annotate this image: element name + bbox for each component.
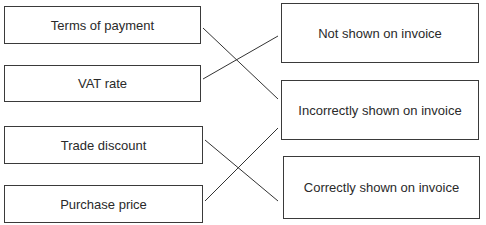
right-box-correctly-shown: Correctly shown on invoice bbox=[283, 156, 480, 219]
left-box-terms-of-payment: Terms of payment bbox=[4, 6, 201, 44]
right-box-label: Correctly shown on invoice bbox=[304, 180, 459, 195]
connector-terms-to-incorrect bbox=[203, 28, 278, 99]
connector-purchase-to-incorrect bbox=[205, 128, 278, 201]
left-box-label: Trade discount bbox=[61, 138, 147, 153]
right-box-label: Not shown on invoice bbox=[318, 26, 442, 41]
left-box-trade-discount: Trade discount bbox=[4, 126, 203, 164]
left-box-label: Terms of payment bbox=[51, 18, 154, 33]
connector-vat-to-not-shown bbox=[203, 36, 278, 79]
connector-trade-to-correct bbox=[205, 140, 278, 201]
left-box-vat-rate: VAT rate bbox=[4, 65, 201, 102]
left-box-purchase-price: Purchase price bbox=[4, 185, 203, 223]
left-box-label: VAT rate bbox=[78, 76, 127, 91]
right-box-incorrectly-shown: Incorrectly shown on invoice bbox=[281, 80, 479, 140]
right-box-not-shown: Not shown on invoice bbox=[281, 3, 479, 63]
right-box-label: Incorrectly shown on invoice bbox=[298, 103, 461, 118]
left-box-label: Purchase price bbox=[60, 197, 147, 212]
